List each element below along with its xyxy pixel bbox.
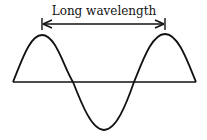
wavelength-label: Long wavelength [52,4,157,18]
wave-diagram: Long wavelength [0,0,207,140]
wavelength-arrow [42,18,165,30]
